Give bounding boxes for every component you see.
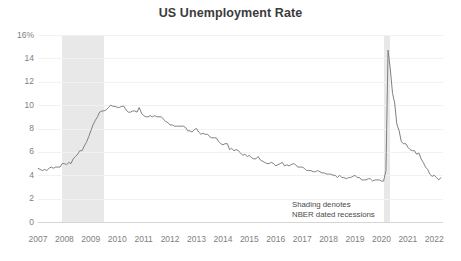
y-axis-tick-label: 0: [0, 218, 34, 227]
y-axis-tick-label: 6: [0, 147, 34, 156]
plot-area: [38, 35, 443, 222]
y-axis-tick-label: 16%: [0, 31, 34, 40]
y-axis-tick-label: 8: [0, 124, 34, 133]
annotation-line-2: NBER dated recessions: [292, 210, 375, 220]
series-layer: [38, 35, 443, 222]
annotation-line-1: Shading denotes: [292, 200, 375, 210]
y-axis-tick-label: 4: [0, 171, 34, 180]
y-axis-tick-label: 2: [0, 194, 34, 203]
y-axis: 16%14121086420: [0, 0, 34, 261]
x-axis-tick-label: 2022: [414, 234, 454, 244]
chart-title: US Unemployment Rate: [0, 6, 461, 20]
recession-shading-note: Shading denotes NBER dated recessions: [292, 200, 375, 219]
series-line: [38, 50, 441, 181]
y-axis-tick-label: 14: [0, 54, 34, 63]
y-axis-tick-label: 12: [0, 77, 34, 86]
x-axis-line: [38, 222, 443, 223]
y-axis-tick-label: 10: [0, 101, 34, 110]
chart-container: US Unemployment Rate 16%14121086420 Shad…: [0, 0, 461, 261]
